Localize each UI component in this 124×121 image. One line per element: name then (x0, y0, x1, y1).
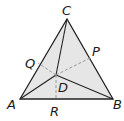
triangle-diagram: C A B D P Q R (0, 0, 124, 121)
label-d: D (58, 80, 68, 95)
label-p: P (92, 44, 100, 59)
label-r: R (50, 104, 59, 119)
label-c: C (62, 3, 72, 18)
label-b: B (113, 97, 122, 112)
label-a: A (6, 97, 16, 112)
label-q: Q (25, 56, 35, 71)
